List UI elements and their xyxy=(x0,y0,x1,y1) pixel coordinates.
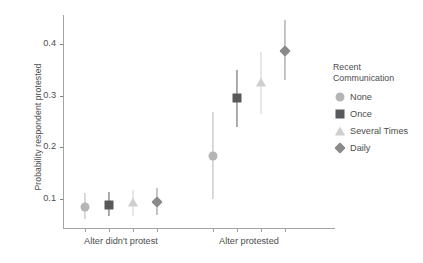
y-tick-label: 0.1 xyxy=(30,194,56,203)
data-point-triangle xyxy=(256,78,266,87)
legend: Recent Communication NoneOnceSeveral Tim… xyxy=(333,62,421,157)
legend-diamond-icon xyxy=(333,141,347,155)
legend-item-several-times[interactable]: Several Times xyxy=(333,123,421,140)
legend-item-label: None xyxy=(350,92,372,102)
x-tick-mark xyxy=(285,229,286,232)
data-point-triangle xyxy=(128,197,138,206)
legend-item-label: Daily xyxy=(350,143,370,153)
x-axis-line xyxy=(63,228,335,229)
y-tick-label: 0.4 xyxy=(30,39,56,48)
x-group-label: Alter protested xyxy=(219,236,279,246)
x-tick-mark xyxy=(133,229,134,232)
legend-item-label: Once xyxy=(350,109,372,119)
legend-square-icon xyxy=(333,107,347,121)
data-point-circle xyxy=(81,202,90,211)
legend-item-label: Several Times xyxy=(350,126,408,136)
y-tick-label: 0.3 xyxy=(30,91,56,100)
data-point-diamond xyxy=(151,196,162,207)
y-tick-label: 0.2 xyxy=(30,142,56,151)
legend-item-daily[interactable]: Daily xyxy=(333,140,421,157)
x-tick-mark xyxy=(109,229,110,232)
chart-container: Probability respondent protested 0.10.20… xyxy=(0,0,423,263)
x-tick-mark xyxy=(213,229,214,232)
x-tick-mark xyxy=(157,229,158,232)
y-axis-line xyxy=(63,15,64,229)
data-point-square xyxy=(105,200,114,209)
x-tick-mark xyxy=(85,229,86,232)
x-tick-mark xyxy=(261,229,262,232)
data-point-circle xyxy=(209,151,218,160)
data-point-square xyxy=(233,94,242,103)
legend-triangle-icon xyxy=(333,124,347,138)
legend-item-once[interactable]: Once xyxy=(333,106,421,123)
legend-items: NoneOnceSeveral TimesDaily xyxy=(333,89,421,157)
legend-circle-icon xyxy=(333,90,347,104)
legend-title: Recent Communication xyxy=(333,62,421,85)
legend-item-none[interactable]: None xyxy=(333,89,421,106)
data-point-diamond xyxy=(279,46,290,57)
x-group-label: Alter didn't protest xyxy=(84,236,158,246)
x-tick-mark xyxy=(237,229,238,232)
